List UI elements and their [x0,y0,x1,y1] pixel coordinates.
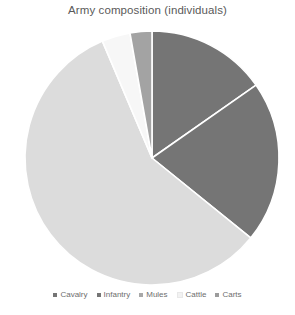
legend-item-cavalry[interactable]: Cavalry [53,290,87,300]
legend-swatch-cattle [177,292,183,298]
legend-swatch-mules [139,293,143,297]
pie-slices-group [25,31,279,285]
pie-chart-figure: Army composition (individuals) CavalryIn… [0,0,295,315]
chart-title: Army composition (individuals) [0,4,295,16]
legend-item-mules[interactable]: Mules [139,290,167,300]
pie-plot-area [0,22,295,290]
legend-item-cattle[interactable]: Cattle [177,290,207,300]
legend-item-carts[interactable]: Carts [215,290,241,300]
legend-swatch-cavalry [53,293,57,297]
legend-swatch-infantry [97,293,101,297]
legend-label-mules: Mules [146,290,167,300]
chart-legend: CavalryInfantryMulesCattleCarts [0,290,295,300]
legend-label-infantry: Infantry [104,290,131,300]
pie-svg [0,22,295,290]
legend-swatch-carts [215,293,219,297]
legend-label-cattle: Cattle [186,290,207,300]
legend-label-cavalry: Cavalry [60,290,87,300]
legend-label-carts: Carts [222,290,241,300]
legend-item-infantry[interactable]: Infantry [97,290,131,300]
